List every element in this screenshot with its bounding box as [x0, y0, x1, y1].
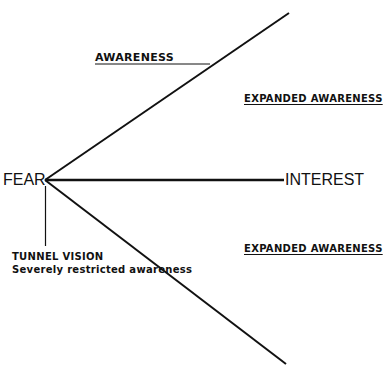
- fear-label: FEAR: [3, 172, 46, 188]
- tunnel-vision-title: TUNNEL VISION: [12, 252, 104, 262]
- tunnel-vision-subtitle: Severely restricted awareness: [12, 265, 192, 275]
- expanded-awareness-lower-label: EXPANDED AWARENESS: [244, 244, 383, 254]
- awareness-label: AWARENESS: [95, 52, 174, 63]
- expanded-awareness-upper-label: EXPANDED AWARENESS: [244, 94, 383, 104]
- interest-label: INTEREST: [285, 172, 364, 188]
